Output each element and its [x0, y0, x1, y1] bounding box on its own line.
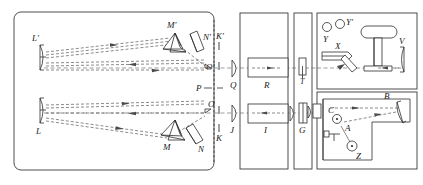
slit-panel-frame: [294, 13, 312, 169]
label-g: G: [299, 125, 306, 135]
label-q: Q: [230, 80, 237, 90]
label-i: I: [263, 125, 268, 135]
lens-q: [232, 60, 236, 77]
upper-ray-bundle: [46, 38, 205, 70]
post-c: [333, 115, 342, 124]
detector-left-wall: [308, 99, 323, 160]
mirror-l-prime: [40, 45, 46, 70]
slit-t: [299, 58, 306, 78]
main-optical-bench-frame: [14, 12, 214, 170]
support-bracket: [324, 131, 340, 141]
mirror-b: [397, 101, 406, 123]
source-y-prime: [336, 20, 345, 29]
label-p: P: [195, 83, 202, 93]
mirror-l: [40, 98, 46, 123]
weight-z: [347, 141, 357, 151]
label-c: C: [328, 105, 335, 115]
collimator-panel-frame: [240, 13, 288, 169]
tube-r: [248, 58, 288, 77]
optical-diagram-figure: L' L: [0, 0, 423, 185]
grating-g: [299, 103, 307, 123]
label-v: V: [399, 36, 406, 46]
label-x: X: [334, 41, 341, 51]
label-y-prime: Y': [346, 17, 354, 27]
label-o-prime: O': [206, 62, 215, 72]
label-k: K: [215, 133, 223, 143]
label-o: O: [208, 99, 215, 109]
detector-chamber-frame: [317, 92, 417, 169]
label-l-prime: L': [31, 33, 40, 43]
label-z: Z: [356, 151, 362, 161]
plate-n-prime: [190, 31, 204, 52]
label-l: L: [35, 126, 41, 136]
diagram-canvas: L' L: [0, 0, 423, 185]
label-r: R: [263, 80, 270, 90]
label-j: J: [230, 125, 235, 135]
label-b: B: [384, 91, 390, 101]
arm-x: [322, 52, 357, 72]
tube-i: [248, 104, 288, 123]
detector-chamber-rays: [330, 106, 398, 142]
lower-ray-bundle: [46, 101, 205, 138]
source-y: [323, 23, 332, 32]
label-a: A: [344, 123, 351, 133]
prism-m: [161, 120, 185, 140]
lamp-assembly: [361, 26, 397, 71]
plate-n: [186, 124, 203, 144]
label-t: T: [300, 77, 305, 86]
label-n-prime: N': [202, 32, 212, 42]
focal-marker-o: [205, 109, 211, 113]
prism-m-prime: [163, 33, 186, 52]
label-y: Y: [323, 34, 329, 44]
label-m-prime: M': [166, 20, 177, 30]
lens-before-g: [290, 106, 294, 121]
label-n: N: [197, 144, 205, 154]
lens-j: [232, 105, 236, 122]
label-k-prime: K': [215, 31, 225, 41]
source-chamber-frame: [317, 13, 417, 89]
label-m: M: [162, 142, 171, 152]
